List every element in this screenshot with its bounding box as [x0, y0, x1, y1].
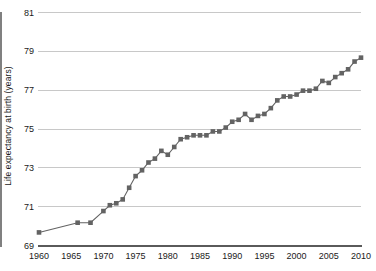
data-point-marker	[140, 168, 145, 173]
data-point-marker	[327, 81, 332, 86]
data-point-marker	[217, 129, 222, 134]
data-point-marker	[101, 209, 106, 214]
data-point-marker	[256, 114, 261, 119]
data-point-marker	[108, 203, 113, 208]
data-point-marker	[320, 79, 325, 84]
data-point-marker	[269, 106, 274, 111]
data-point-marker	[166, 152, 171, 157]
data-point-marker	[191, 133, 196, 138]
data-point-marker	[352, 59, 357, 64]
data-point-marker	[307, 88, 312, 93]
data-point-marker	[262, 112, 267, 117]
data-point-marker	[301, 88, 306, 93]
data-point-marker	[211, 129, 216, 134]
data-point-marker	[37, 230, 42, 235]
series-markers	[37, 55, 364, 234]
data-point-marker	[294, 92, 299, 97]
data-point-marker	[178, 137, 183, 142]
data-point-marker	[159, 149, 164, 154]
data-point-marker	[185, 135, 190, 140]
data-point-marker	[223, 125, 228, 130]
data-point-marker	[204, 133, 209, 138]
data-point-marker	[359, 55, 364, 60]
data-point-marker	[243, 112, 248, 117]
data-point-marker	[281, 94, 286, 99]
data-point-marker	[249, 117, 254, 122]
data-point-marker	[333, 75, 338, 80]
data-point-marker	[133, 174, 138, 179]
data-point-marker	[146, 160, 151, 165]
data-point-marker	[314, 86, 319, 91]
data-point-marker	[346, 67, 351, 72]
data-point-marker	[339, 71, 344, 76]
data-point-marker	[114, 201, 119, 206]
data-point-marker	[172, 145, 177, 150]
data-point-marker	[230, 119, 235, 124]
data-point-marker	[75, 220, 80, 225]
data-point-marker	[120, 197, 125, 202]
series-line	[39, 58, 361, 233]
data-point-marker	[88, 220, 93, 225]
data-point-marker	[236, 117, 241, 122]
data-point-marker	[275, 98, 280, 103]
data-point-marker	[153, 156, 158, 161]
data-point-marker	[127, 185, 132, 190]
data-point-marker	[288, 94, 293, 99]
data-point-marker	[198, 133, 203, 138]
